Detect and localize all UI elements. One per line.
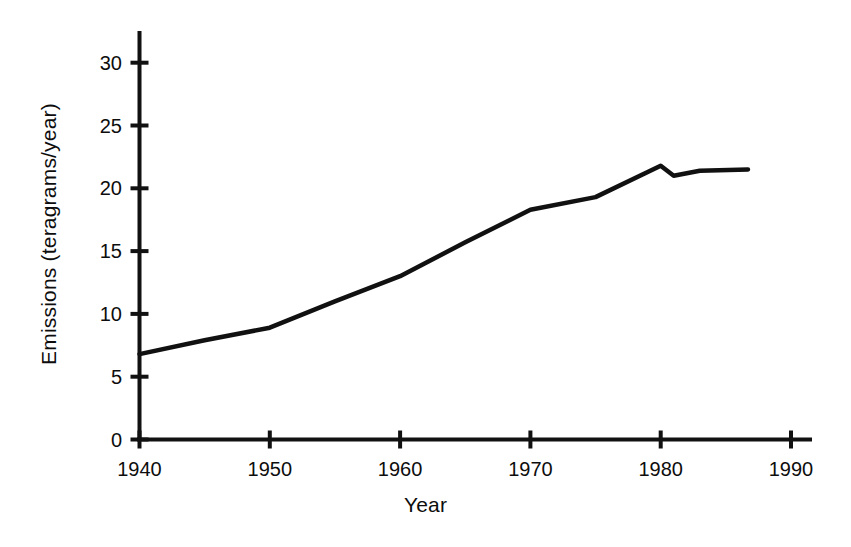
- x-axis-label: Year: [0, 493, 851, 517]
- x-axis-tick-label: 1990: [769, 458, 814, 481]
- y-axis-label: Emissions (teragrams/year): [37, 79, 61, 389]
- x-axis-tick-label: 1950: [248, 458, 293, 481]
- y-axis-tick-label: 30: [60, 51, 122, 74]
- y-axis-tick-label: 10: [60, 302, 122, 325]
- x-axis-tick-label: 1980: [638, 458, 683, 481]
- x-axis-tick-label: 1970: [508, 458, 553, 481]
- x-axis-tick-label: 1940: [117, 458, 162, 481]
- y-axis-tick-label: 5: [60, 365, 122, 388]
- emissions-data-line: [140, 166, 749, 354]
- x-axis-tick-label: 1960: [378, 458, 423, 481]
- y-axis-tick-label: 0: [60, 428, 122, 451]
- y-axis-tick-label: 20: [60, 177, 122, 200]
- y-axis-tick-label: 25: [60, 114, 122, 137]
- y-axis-tick-label: 15: [60, 240, 122, 263]
- emissions-line-chart-figure: 051015202530 194019501960197019801990 Em…: [0, 0, 851, 547]
